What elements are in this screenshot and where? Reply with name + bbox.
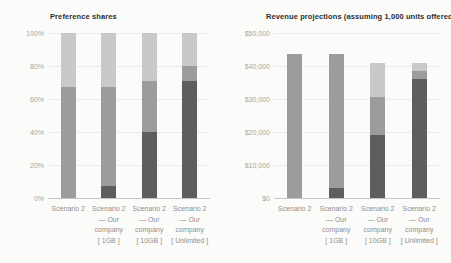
bar-segment-series-medium — [370, 97, 385, 135]
stacked-bar — [182, 33, 197, 198]
bar-segment-series-light — [370, 63, 385, 98]
x-axis-baseline — [274, 198, 440, 199]
x-axis-baseline — [48, 198, 210, 199]
bar-segment-series-dark — [412, 79, 427, 198]
plot-area-wrap: $0$10,000$20,000$30,000$40,000$50,000 — [240, 33, 442, 198]
x-axis-labels: Scenario 2Scenario 2 — Our company [ 1GB… — [274, 204, 440, 246]
y-tick-label: 40% — [30, 129, 44, 137]
bar-segment-series-medium — [101, 87, 116, 186]
bar-segment-series-medium — [412, 71, 427, 79]
bar-segment-series-dark — [329, 188, 344, 198]
bar-column — [129, 33, 170, 198]
bar-segment-series-medium — [61, 87, 76, 198]
y-tick-label: $30,000 — [245, 96, 270, 104]
x-category-label: Scenario 2 — Our company [ 10GB ] — [129, 204, 170, 246]
stacked-bar — [61, 33, 76, 198]
bar-column — [399, 33, 441, 198]
bar-segment-series-light — [142, 33, 157, 81]
bar-column — [316, 33, 358, 198]
bar-column — [48, 33, 89, 198]
bar-segment-series-dark — [101, 186, 116, 198]
plot-area — [48, 33, 210, 198]
chart-title: Preference shares — [50, 10, 214, 23]
chart-title: Revenue projections (assuming 1,000 unit… — [266, 10, 442, 23]
bar-column — [89, 33, 130, 198]
stacked-bar — [370, 63, 385, 198]
plot-area-wrap: 0%20%40%60%80%100% — [18, 33, 214, 198]
stacked-bar — [329, 54, 344, 198]
x-axis-labels: Scenario 2Scenario 2 — Our company [ 1GB… — [48, 204, 210, 246]
bar-segment-series-medium — [287, 54, 302, 198]
preference-shares-chart: Preference shares 0%20%40%60%80%100% Sce… — [18, 10, 214, 246]
bar-column — [170, 33, 211, 198]
y-tick-label: $0 — [262, 195, 270, 203]
x-category-label: Scenario 2 — Our company [ Unlimited ] — [170, 204, 211, 246]
bar-segment-series-light — [101, 33, 116, 87]
y-axis: $0$10,000$20,000$30,000$40,000$50,000 — [240, 33, 274, 198]
x-category-label: Scenario 2 — Our company [ 1GB ] — [89, 204, 130, 246]
bar-segment-series-medium — [329, 54, 344, 188]
y-tick-label: $10,000 — [245, 162, 270, 170]
x-category-label: Scenario 2 — [274, 204, 316, 246]
stacked-bar — [142, 33, 157, 198]
y-tick-label: $20,000 — [245, 129, 270, 137]
x-category-label: Scenario 2 — [48, 204, 89, 246]
bar-segment-series-light — [61, 33, 76, 87]
x-category-label: Scenario 2 — Our company [ 1GB ] — [316, 204, 358, 246]
x-category-label: Scenario 2 — Our company [ 10GB ] — [357, 204, 399, 246]
y-tick-label: $40,000 — [245, 63, 270, 71]
y-tick-label: 80% — [30, 63, 44, 71]
stacked-bar — [412, 63, 427, 198]
stacked-bar — [101, 33, 116, 198]
y-tick-label: 0% — [34, 195, 44, 203]
revenue-projections-chart: Revenue projections (assuming 1,000 unit… — [240, 10, 442, 246]
plot-area — [274, 33, 440, 198]
stacked-bar — [287, 54, 302, 198]
bar-segment-series-dark — [182, 81, 197, 198]
bar-column — [357, 33, 399, 198]
bars-container — [48, 33, 210, 198]
y-tick-label: 20% — [30, 162, 44, 170]
bar-segment-series-medium — [142, 81, 157, 132]
bar-segment-series-light — [412, 63, 427, 71]
x-category-label: Scenario 2 — Our company [ Unlimited ] — [399, 204, 441, 246]
y-tick-label: 60% — [30, 96, 44, 104]
bar-segment-series-dark — [142, 132, 157, 198]
y-tick-label: $50,000 — [245, 30, 270, 38]
bar-segment-series-dark — [370, 135, 385, 198]
bar-segment-series-medium — [182, 66, 197, 81]
bars-container — [274, 33, 440, 198]
bar-segment-series-light — [182, 33, 197, 66]
y-tick-label: 100% — [26, 30, 44, 38]
y-axis: 0%20%40%60%80%100% — [18, 33, 48, 198]
bar-column — [274, 33, 316, 198]
